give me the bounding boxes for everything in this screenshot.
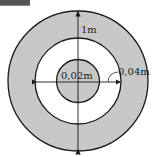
concentric-circles-diagram: 1m 0,02m 0,04m — [0, 0, 153, 157]
label-ring-width: 0,04m — [118, 66, 150, 77]
label-1m: 1m — [81, 24, 97, 35]
label-inner-diameter: 0,02m — [61, 70, 93, 81]
